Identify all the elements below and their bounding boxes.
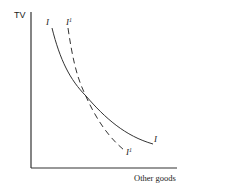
curve-I1-top-label: I1 [66,18,72,27]
curve-I-bottom-label: I [154,135,157,144]
x-axis-label: Other goods [134,174,176,183]
curve-I1-bottom-label: I1 [126,148,132,157]
y-axis-label: TV [14,11,26,20]
curve-I-top-label: I [46,18,49,27]
curve-I1-dashed [68,28,124,150]
diagram-canvas [0,0,227,189]
